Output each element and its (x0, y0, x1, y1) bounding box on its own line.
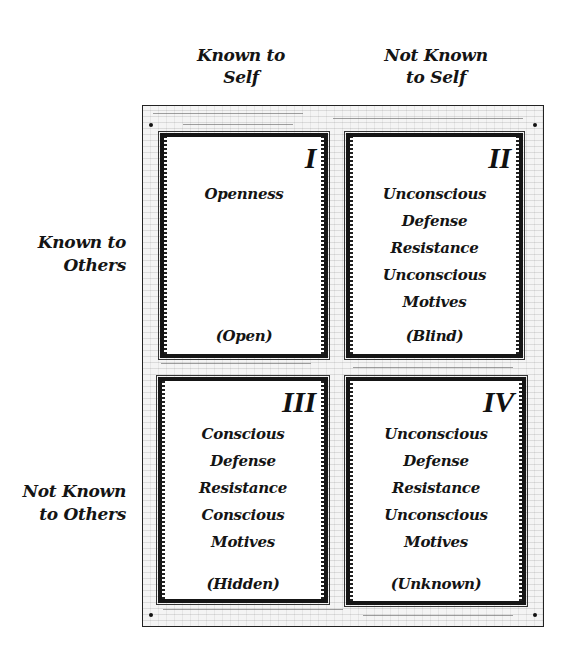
pane-numeral: II (488, 143, 511, 173)
wood-grain (153, 113, 303, 114)
pane-line: Defense (350, 448, 522, 475)
pane-line: Unconscious (350, 181, 519, 208)
pane-blind: II Unconscious Defense Resistance Uncons… (346, 133, 523, 358)
pane-line: Motives (350, 289, 519, 316)
wood-grain (363, 615, 513, 616)
label-line: Not Known (361, 44, 511, 66)
label-line: Known to (166, 44, 316, 66)
pane-line: Defense (350, 208, 519, 235)
pane-tag: (Blind) (350, 327, 519, 345)
pane-tag: (Hidden) (162, 575, 324, 593)
column-label-not-known-to-self: Not Known to Self (361, 44, 511, 88)
label-line: Others (6, 254, 126, 277)
pane-line: Unconscious (350, 262, 519, 289)
pane-content: Openness (164, 181, 324, 208)
pane-tag: (Open) (164, 327, 324, 345)
label-line: to Others (6, 503, 126, 526)
label-line: to Self (361, 66, 511, 88)
wood-grain (161, 363, 311, 364)
wood-grain (163, 609, 343, 610)
wood-grain (183, 124, 293, 125)
pane-line: Resistance (350, 235, 519, 262)
pane-hidden: III Conscious Defense Resistance Conscio… (158, 377, 328, 603)
nail-icon (149, 613, 153, 617)
pane-unknown: IV Unconscious Defense Resistance Uncons… (346, 377, 526, 605)
nail-icon (533, 613, 537, 617)
label-line: Not Known (6, 480, 126, 503)
pane-line: Conscious (162, 502, 324, 529)
pane-content: Conscious Defense Resistance Conscious M… (162, 421, 324, 556)
pane-tag: (Unknown) (350, 575, 522, 593)
pane-line: Unconscious (350, 421, 522, 448)
pane-line: Resistance (162, 475, 324, 502)
label-line: Self (166, 66, 316, 88)
pane-line: Resistance (350, 475, 522, 502)
label-line: Known to (6, 231, 126, 254)
pane-content: Unconscious Defense Resistance Unconscio… (350, 181, 519, 316)
nail-icon (533, 123, 537, 127)
pane-numeral: III (282, 387, 316, 417)
wood-grain (353, 367, 513, 368)
pane-line: Defense (162, 448, 324, 475)
row-label-not-known-to-others: Not Known to Others (6, 480, 126, 526)
pane-line: Unconscious (350, 502, 522, 529)
pane-line: Motives (350, 529, 522, 556)
pane-numeral: IV (483, 387, 514, 417)
pane-content: Unconscious Defense Resistance Unconscio… (350, 421, 522, 556)
column-label-known-to-self: Known to Self (166, 44, 316, 88)
pane-numeral: I (305, 143, 316, 173)
pane-line: Conscious (162, 421, 324, 448)
pane-open: I Openness (Open) (160, 133, 328, 358)
pane-line: Openness (164, 181, 324, 208)
pane-line: Motives (162, 529, 324, 556)
wood-grain (333, 118, 523, 119)
nail-icon (149, 123, 153, 127)
row-label-known-to-others: Known to Others (6, 231, 126, 277)
